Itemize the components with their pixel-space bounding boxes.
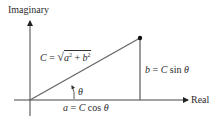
- real-axis-label: Real: [191, 95, 209, 105]
- complex-point: [138, 36, 142, 40]
- formula-C: C: [40, 52, 47, 63]
- hypotenuse-line: [30, 38, 140, 100]
- imaginary-axis-label: Imaginary: [8, 5, 49, 15]
- adjacent-formula: a = C cos θ: [63, 103, 109, 113]
- angle-theta-label: θ: [78, 87, 83, 97]
- sqrt-icon: √: [57, 50, 64, 64]
- angle-arc: [72, 86, 74, 99]
- diagram-canvas: [0, 0, 212, 118]
- hypotenuse-formula: C = √a2 + b2: [40, 51, 91, 63]
- opposite-formula: b = C sin θ: [145, 65, 189, 75]
